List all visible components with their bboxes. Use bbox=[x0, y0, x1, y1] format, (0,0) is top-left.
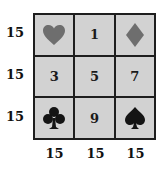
row-sum-label: 15 bbox=[6, 25, 28, 40]
cell-number: 3 bbox=[35, 57, 73, 97]
cell-heart bbox=[35, 15, 73, 55]
cell-diamond bbox=[116, 15, 154, 55]
spade-icon bbox=[123, 106, 147, 130]
cell-spade bbox=[116, 98, 154, 138]
club-icon bbox=[42, 106, 66, 130]
cell-club bbox=[35, 98, 73, 138]
cell-number: 7 bbox=[116, 57, 154, 97]
diamond-icon bbox=[125, 22, 145, 48]
cell-number: 9 bbox=[75, 98, 113, 138]
col-sum-label: 15 bbox=[34, 146, 75, 161]
cell-number: 1 bbox=[75, 15, 113, 55]
magic-square-grid: 1 3 5 7 9 bbox=[33, 13, 156, 140]
row-sum-label: 15 bbox=[6, 109, 28, 124]
row-sum-label: 15 bbox=[6, 67, 28, 82]
cell-number: 5 bbox=[75, 57, 113, 97]
col-sum-label: 15 bbox=[75, 146, 116, 161]
col-sum-label: 15 bbox=[115, 146, 156, 161]
heart-icon bbox=[42, 24, 66, 46]
